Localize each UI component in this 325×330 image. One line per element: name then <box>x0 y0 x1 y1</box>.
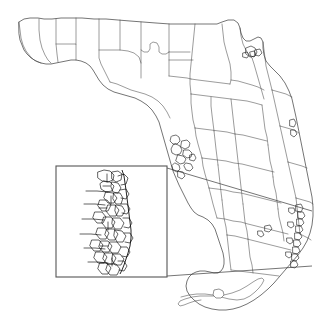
map-figure <box>0 0 325 330</box>
offshore-islands-layer <box>213 289 224 298</box>
inset-frame-box[interactable] <box>56 166 167 277</box>
offshore-island <box>213 289 224 298</box>
florida-map-svg <box>0 0 325 330</box>
